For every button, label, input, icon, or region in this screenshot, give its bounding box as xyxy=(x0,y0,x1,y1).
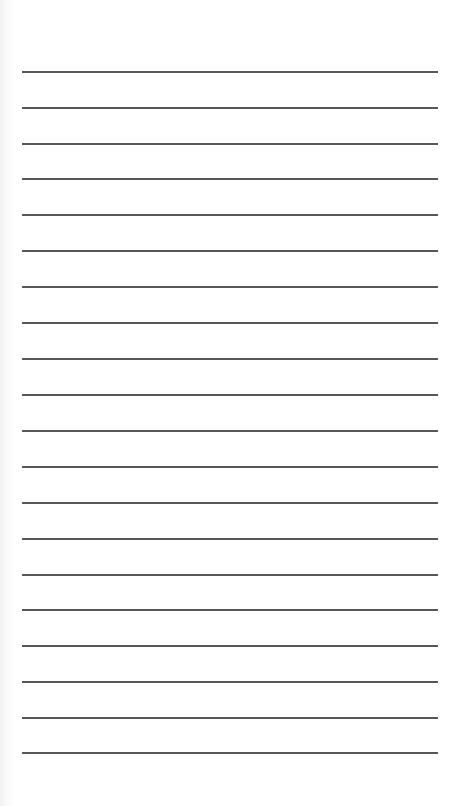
ruled-line xyxy=(22,214,438,216)
ruled-line xyxy=(22,71,438,73)
ruled-line xyxy=(22,394,438,396)
ruled-line xyxy=(22,538,438,540)
ruled-line xyxy=(22,752,438,754)
ruled-line xyxy=(22,466,438,468)
lined-paper-page xyxy=(0,0,460,806)
ruled-line xyxy=(22,286,438,288)
ruled-line xyxy=(22,609,438,611)
ruled-line xyxy=(22,143,438,145)
ruled-line xyxy=(22,430,438,432)
ruled-line xyxy=(22,322,438,324)
ruled-line xyxy=(22,178,438,180)
ruled-line xyxy=(22,681,438,683)
ruled-line xyxy=(22,717,438,719)
ruled-line xyxy=(22,250,438,252)
ruled-line xyxy=(22,358,438,360)
ruled-line xyxy=(22,645,438,647)
ruled-line xyxy=(22,574,438,576)
ruled-line xyxy=(22,107,438,109)
ruled-line xyxy=(22,502,438,504)
